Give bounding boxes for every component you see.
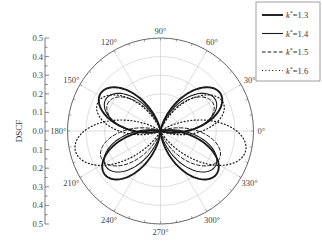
radial-tick-label: 0.1 xyxy=(32,107,43,117)
angle-label: 60° xyxy=(206,37,218,47)
legend: k*=1.3k*=1.4k*=1.5k*=1.6 xyxy=(256,2,320,81)
radial-tick-label: 0.4 xyxy=(32,52,43,62)
angle-label: 90° xyxy=(155,26,167,36)
angle-label: 150° xyxy=(63,75,79,85)
radial-tick-label: 0.5 xyxy=(32,219,43,229)
radial-tick-label: 0.2 xyxy=(32,89,43,99)
radial-tick-label: 0.3 xyxy=(32,182,43,192)
angle-label: 240° xyxy=(101,215,117,225)
angle-label: 210° xyxy=(63,178,79,188)
radial-axis: 0.50.40.30.20.10.00.10.20.30.40.5 xyxy=(32,33,49,229)
radial-tick-label: 0.4 xyxy=(32,200,43,210)
legend-label: k*=1.6 xyxy=(286,66,308,76)
spoke xyxy=(161,50,208,131)
radial-tick-label: 0.2 xyxy=(32,163,43,173)
lobe xyxy=(161,97,215,133)
angle-label: 270° xyxy=(152,227,168,237)
lobe xyxy=(107,97,161,133)
legend-label: k*=1.4 xyxy=(286,29,309,39)
angle-label: 30° xyxy=(244,75,256,85)
legend-label: k*=1.3 xyxy=(286,10,308,20)
angle-label: 120° xyxy=(101,37,117,47)
angle-label: 180° xyxy=(50,126,66,136)
radial-tick-label: 0.5 xyxy=(32,33,43,43)
angle-label: 330° xyxy=(242,178,258,188)
polar-chart: 0.50.40.30.20.10.00.10.20.30.40.5 DSCF 0… xyxy=(0,0,322,247)
angle-label: 0° xyxy=(258,126,266,136)
radial-tick-label: 0.0 xyxy=(32,126,43,136)
legend-label: k*=1.5 xyxy=(286,47,308,57)
lobe xyxy=(161,130,219,179)
angle-label: 300° xyxy=(204,215,220,225)
radial-tick-label: 0.1 xyxy=(32,145,43,155)
y-axis-title: DSCF xyxy=(14,120,24,143)
radial-tick-label: 0.3 xyxy=(32,70,43,80)
